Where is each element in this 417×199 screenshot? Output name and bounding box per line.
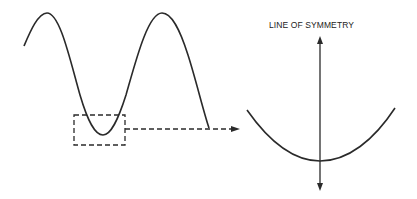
arrowhead-icon [231, 126, 240, 132]
symmetry-diagram [0, 0, 417, 199]
line-of-symmetry-label: LINE OF SYMMETRY [269, 20, 354, 30]
magnified-trough-curve [247, 108, 395, 161]
arrow-up-icon [317, 36, 323, 44]
wave-curve [24, 13, 209, 135]
arrow-down-icon [317, 183, 323, 191]
